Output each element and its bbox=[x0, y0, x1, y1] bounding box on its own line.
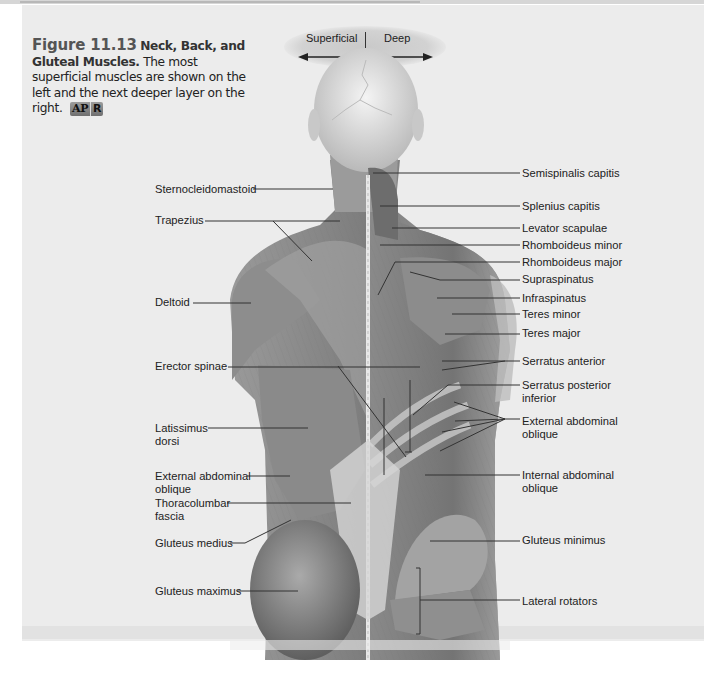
label-lateral-rotators: Lateral rotators bbox=[522, 595, 597, 608]
left-ear bbox=[308, 109, 320, 141]
label-trapezius: Trapezius bbox=[155, 214, 204, 227]
right-ear bbox=[412, 109, 424, 141]
label-thoracolumbar-fascia: Thoracolumbar fascia bbox=[155, 497, 235, 523]
label-infraspinatus: Infraspinatus bbox=[522, 292, 586, 305]
label-external-abdominal-oblique-left: External abdominal oblique bbox=[155, 470, 255, 496]
label-gluteus-maximus: Gluteus maximus bbox=[155, 585, 241, 598]
gluteus-maximus-left bbox=[250, 520, 360, 660]
label-serratus-anterior: Serratus anterior bbox=[522, 355, 605, 368]
label-levator-scapulae: Levator scapulae bbox=[522, 222, 607, 235]
label-teres-major: Teres major bbox=[522, 327, 580, 340]
label-teres-minor: Teres minor bbox=[522, 308, 580, 321]
label-supraspinatus: Supraspinatus bbox=[522, 273, 594, 286]
label-internal-abdominal-oblique: Internal abdominal oblique bbox=[522, 469, 622, 495]
label-gluteus-medius: Gluteus medius bbox=[155, 537, 233, 550]
label-sternocleidomastoid: Sternocleidomastoid bbox=[155, 183, 256, 196]
skull bbox=[314, 48, 418, 172]
figure-fade bbox=[230, 640, 510, 650]
label-erector-spinae: Erector spinae bbox=[155, 360, 227, 373]
label-latissimus-dorsi: Latissimus dorsi bbox=[155, 422, 215, 448]
label-splenius-capitis: Splenius capitis bbox=[522, 200, 600, 213]
label-semispinalis-capitis: Semispinalis capitis bbox=[522, 167, 620, 180]
label-external-abdominal-oblique-right: External abdominal oblique bbox=[522, 415, 622, 441]
anatomy-illustration bbox=[0, 0, 704, 693]
label-rhomboideus-minor: Rhomboideus minor bbox=[522, 239, 622, 252]
label-serratus-posterior-inferior: Serratus posterior inferior bbox=[522, 379, 612, 405]
label-gluteus-minimus: Gluteus minimus bbox=[522, 534, 605, 547]
label-deltoid: Deltoid bbox=[155, 296, 190, 309]
label-rhomboideus-major: Rhomboideus major bbox=[522, 256, 622, 269]
